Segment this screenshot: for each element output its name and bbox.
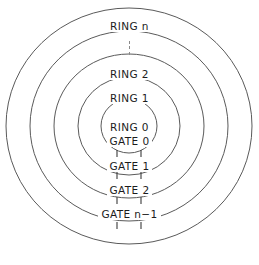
gate-label-gate-n-1: GATE n−1 bbox=[0, 209, 259, 220]
gate-label-gate-0-text: GATE 0 bbox=[107, 136, 153, 147]
ring-label-ring-1: RING 1 bbox=[0, 93, 259, 104]
ring-label-ring-2: RING 2 bbox=[0, 69, 259, 80]
vertical-ellipsis-icon bbox=[0, 38, 259, 55]
gate-label-gate-2-text: GATE 2 bbox=[107, 185, 153, 196]
gate-label-gate-0: GATE 0 bbox=[0, 136, 259, 147]
ring-label-ring-2-text: RING 2 bbox=[107, 69, 152, 80]
gate-label-gate-2: GATE 2 bbox=[0, 185, 259, 196]
gate-label-gate-1-text: GATE 1 bbox=[107, 161, 153, 172]
ring-label-ring-0: RING 0 bbox=[0, 122, 259, 133]
ring-label-ring-0-text: RING 0 bbox=[107, 122, 152, 133]
gate-label-gate-1: GATE 1 bbox=[0, 161, 259, 172]
ring-label-ring-n-text: RING n bbox=[107, 21, 152, 32]
gate-label-gate-n-1-text: GATE n−1 bbox=[98, 209, 160, 220]
gate-tick-group-gate-n-1 bbox=[117, 222, 141, 229]
ring-label-ring-n: RING n bbox=[0, 21, 259, 32]
ring-label-ring-1-text: RING 1 bbox=[107, 93, 152, 104]
ring-gate-diagram: RING n RING 2 RING 1 RING 0 GATE 0 GATE … bbox=[0, 0, 259, 265]
